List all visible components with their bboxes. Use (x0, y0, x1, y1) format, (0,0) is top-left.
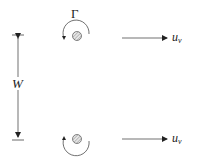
top-vortex: Γ (62, 6, 89, 41)
bottom-vortex (62, 135, 89, 156)
width-dimension: W (11, 35, 25, 140)
vortex-core-top (73, 32, 82, 41)
velocity-bottom: uv (122, 131, 182, 146)
rotation-arrowhead-top-icon (62, 36, 66, 40)
width-label: W (12, 76, 24, 91)
circulation-label: Γ (71, 6, 79, 21)
rotation-arrowhead-bottom-icon (62, 136, 66, 140)
velocity-top: uv (122, 30, 182, 45)
velocity-label-top: uv (172, 30, 182, 45)
velocity-label-bottom: uv (172, 131, 182, 146)
vortex-core-bottom (73, 135, 82, 144)
vortex-pair-diagram: W Γ uv uv (0, 0, 198, 161)
